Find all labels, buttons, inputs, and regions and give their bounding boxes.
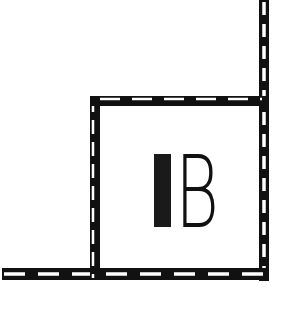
right-vertical-boundary bbox=[259, 0, 269, 281]
left-vertical-boundary bbox=[90, 96, 100, 280]
diagram-canvas: B bbox=[0, 0, 294, 319]
building-label: B bbox=[175, 134, 219, 251]
top-horizontal-boundary bbox=[90, 96, 269, 106]
label-marker-bar bbox=[154, 154, 171, 227]
bottom-horizontal-boundary bbox=[2, 268, 269, 280]
